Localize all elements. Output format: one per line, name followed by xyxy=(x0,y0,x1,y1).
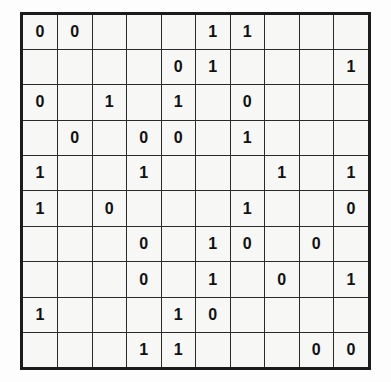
grid-cell-r6-c7[interactable]: 1 xyxy=(230,191,265,226)
grid-cell-r2-c5[interactable]: 0 xyxy=(161,49,196,84)
grid-cell-r2-c6[interactable]: 1 xyxy=(196,49,231,84)
grid-cell-r2-c3[interactable] xyxy=(92,49,127,84)
grid-cell-r7-c7[interactable]: 0 xyxy=(230,226,265,261)
grid-cell-r10-c10[interactable]: 0 xyxy=(334,333,369,367)
grid-cell-r1-c6[interactable]: 1 xyxy=(196,15,231,49)
grid-cell-r4-c7[interactable]: 1 xyxy=(230,120,265,155)
grid-cell-r9-c3[interactable] xyxy=(92,297,127,332)
grid-cell-r1-c10[interactable] xyxy=(334,15,369,49)
grid-cell-r2-c8[interactable] xyxy=(265,49,300,84)
grid-cell-r5-c2[interactable] xyxy=(58,156,93,191)
grid-cell-r3-c5[interactable]: 1 xyxy=(161,85,196,120)
grid-cell-r5-c6[interactable] xyxy=(196,156,231,191)
grid-cell-r6-c1[interactable]: 1 xyxy=(23,191,58,226)
grid-cell-r6-c9[interactable] xyxy=(299,191,334,226)
grid-cell-r5-c3[interactable] xyxy=(92,156,127,191)
grid-cell-r10-c5[interactable]: 1 xyxy=(161,333,196,367)
grid-cell-r4-c8[interactable] xyxy=(265,120,300,155)
grid-cell-r3-c3[interactable]: 1 xyxy=(92,85,127,120)
grid-cell-r9-c10[interactable] xyxy=(334,297,369,332)
grid-cell-r1-c2[interactable]: 0 xyxy=(58,15,93,49)
grid-cell-r1-c3[interactable] xyxy=(92,15,127,49)
grid-cell-r7-c6[interactable]: 1 xyxy=(196,226,231,261)
grid-cell-r8-c4[interactable]: 0 xyxy=(127,262,162,297)
grid-cell-r8-c8[interactable]: 0 xyxy=(265,262,300,297)
grid-cell-r8-c1[interactable] xyxy=(23,262,58,297)
grid-cell-r8-c3[interactable] xyxy=(92,262,127,297)
grid-cell-r3-c8[interactable] xyxy=(265,85,300,120)
grid-cell-r1-c1[interactable]: 0 xyxy=(23,15,58,49)
grid-cell-r10-c1[interactable] xyxy=(23,333,58,367)
grid-cell-r6-c8[interactable] xyxy=(265,191,300,226)
grid-cell-r7-c9[interactable]: 0 xyxy=(299,226,334,261)
grid-cell-r10-c4[interactable]: 1 xyxy=(127,333,162,367)
grid-cell-r7-c8[interactable] xyxy=(265,226,300,261)
grid-cell-r8-c5[interactable] xyxy=(161,262,196,297)
grid-cell-r3-c1[interactable]: 0 xyxy=(23,85,58,120)
grid-cell-r1-c5[interactable] xyxy=(161,15,196,49)
grid-cell-r2-c2[interactable] xyxy=(58,49,93,84)
grid-cell-r1-c9[interactable] xyxy=(299,15,334,49)
grid-cell-r9-c1[interactable]: 1 xyxy=(23,297,58,332)
grid-cell-r1-c7[interactable]: 1 xyxy=(230,15,265,49)
grid-cell-r7-c2[interactable] xyxy=(58,226,93,261)
grid-cell-r6-c3[interactable]: 0 xyxy=(92,191,127,226)
grid-cell-r2-c7[interactable] xyxy=(230,49,265,84)
grid-cell-r9-c2[interactable] xyxy=(58,297,93,332)
grid-cell-r7-c1[interactable] xyxy=(23,226,58,261)
grid-cell-r10-c7[interactable] xyxy=(230,333,265,367)
grid-cell-r3-c7[interactable]: 0 xyxy=(230,85,265,120)
grid-cell-r9-c9[interactable] xyxy=(299,297,334,332)
grid-cell-r5-c10[interactable]: 1 xyxy=(334,156,369,191)
grid-cell-r1-c4[interactable] xyxy=(127,15,162,49)
grid-cell-r4-c9[interactable] xyxy=(299,120,334,155)
grid-cell-r9-c5[interactable]: 1 xyxy=(161,297,196,332)
grid-cell-r7-c5[interactable] xyxy=(161,226,196,261)
grid-cell-r6-c4[interactable] xyxy=(127,191,162,226)
grid-cell-r9-c6[interactable]: 0 xyxy=(196,297,231,332)
grid-cell-r5-c9[interactable] xyxy=(299,156,334,191)
grid-cell-r8-c6[interactable]: 1 xyxy=(196,262,231,297)
grid-cell-r1-c8[interactable] xyxy=(265,15,300,49)
grid-cell-r2-c1[interactable] xyxy=(23,49,58,84)
grid-cell-r8-c2[interactable] xyxy=(58,262,93,297)
grid-cell-r3-c4[interactable] xyxy=(127,85,162,120)
grid-cell-r6-c6[interactable] xyxy=(196,191,231,226)
grid-cell-r10-c3[interactable] xyxy=(92,333,127,367)
grid-cell-r5-c5[interactable] xyxy=(161,156,196,191)
grid-cell-r9-c4[interactable] xyxy=(127,297,162,332)
grid-cell-r10-c2[interactable] xyxy=(58,333,93,367)
grid-cell-r10-c9[interactable]: 0 xyxy=(299,333,334,367)
grid-cell-r2-c10[interactable]: 1 xyxy=(334,49,369,84)
grid-cell-r6-c2[interactable] xyxy=(58,191,93,226)
grid-cell-r8-c7[interactable] xyxy=(230,262,265,297)
grid-cell-r5-c1[interactable]: 1 xyxy=(23,156,58,191)
grid-cell-r10-c8[interactable] xyxy=(265,333,300,367)
grid-cell-r9-c7[interactable] xyxy=(230,297,265,332)
grid-cell-r6-c10[interactable]: 0 xyxy=(334,191,369,226)
grid-cell-r4-c1[interactable] xyxy=(23,120,58,155)
grid-cell-r4-c5[interactable]: 0 xyxy=(161,120,196,155)
grid-cell-r7-c4[interactable]: 0 xyxy=(127,226,162,261)
grid-cell-r3-c6[interactable] xyxy=(196,85,231,120)
grid-cell-r5-c4[interactable]: 1 xyxy=(127,156,162,191)
grid-cell-r3-c9[interactable] xyxy=(299,85,334,120)
grid-cell-r2-c9[interactable] xyxy=(299,49,334,84)
grid-cell-r4-c10[interactable] xyxy=(334,120,369,155)
grid-cell-r7-c10[interactable] xyxy=(334,226,369,261)
grid-cell-r5-c7[interactable] xyxy=(230,156,265,191)
grid-cell-r7-c3[interactable] xyxy=(92,226,127,261)
grid-cell-r9-c8[interactable] xyxy=(265,297,300,332)
grid-cell-r8-c10[interactable]: 1 xyxy=(334,262,369,297)
grid-cell-r10-c6[interactable] xyxy=(196,333,231,367)
grid-cell-r3-c2[interactable] xyxy=(58,85,93,120)
grid-cell-r3-c10[interactable] xyxy=(334,85,369,120)
grid-cell-r4-c3[interactable] xyxy=(92,120,127,155)
grid-cell-r8-c9[interactable] xyxy=(299,262,334,297)
grid-cell-r6-c5[interactable] xyxy=(161,191,196,226)
grid-cell-r4-c6[interactable] xyxy=(196,120,231,155)
grid-cell-r2-c4[interactable] xyxy=(127,49,162,84)
grid-cell-r4-c4[interactable]: 0 xyxy=(127,120,162,155)
grid-cell-r4-c2[interactable]: 0 xyxy=(58,120,93,155)
grid-cell-r5-c8[interactable]: 1 xyxy=(265,156,300,191)
